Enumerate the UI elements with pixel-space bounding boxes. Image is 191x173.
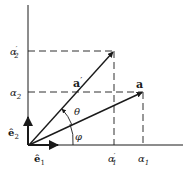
theta-arc — [62, 109, 72, 125]
theta-label: θ — [74, 106, 80, 117]
alpha1-label: α1 — [138, 153, 149, 167]
projection-lines — [28, 51, 143, 145]
vector-a-label: a — [136, 78, 143, 91]
phi-label: φ — [75, 131, 82, 142]
vector-rotation-diagram: a′ a θ φ α′2 α2 α′1 α1 ê2 ê1 — [0, 0, 191, 173]
vector-a — [29, 93, 142, 146]
e1-label: ê1 — [34, 153, 45, 167]
alpha1-prime-label: α′1 — [108, 152, 117, 167]
e2-label: ê2 — [8, 127, 19, 141]
alpha2-prime-label: α′2 — [10, 45, 19, 60]
alpha2-label: α2 — [10, 87, 22, 101]
phi-arc — [70, 124, 73, 145]
vector-a-prime — [29, 52, 113, 145]
